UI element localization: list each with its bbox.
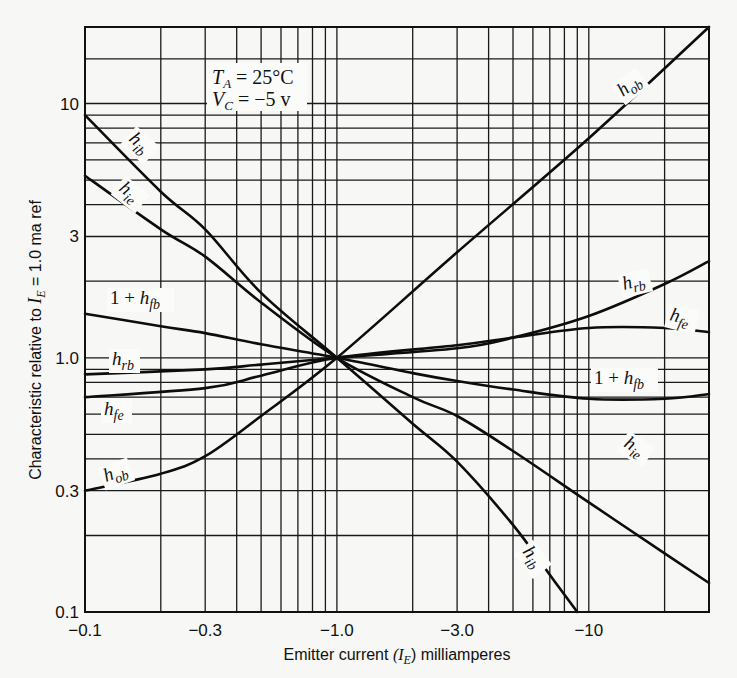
x-tick-label: −3.0 xyxy=(440,621,474,640)
curve-label: hob xyxy=(97,456,135,490)
y-axis-label: Characteristic relative to IE = 1.0 ma r… xyxy=(25,200,48,480)
curve-label: 1 + hfb xyxy=(107,287,174,312)
curve-label: hob xyxy=(610,66,650,105)
y-tick-label: 0.3 xyxy=(55,482,79,501)
y-tick-label: 3 xyxy=(70,227,79,246)
y-axis-ticks: 0.10.31.0310 xyxy=(55,95,79,622)
y-tick-label: 10 xyxy=(60,95,79,114)
y-tick-label: 0.1 xyxy=(55,603,79,622)
curve-label: hrb xyxy=(109,348,140,373)
y-tick-label: 1.0 xyxy=(55,349,79,368)
x-tick-label: −10 xyxy=(574,621,603,640)
x-axis-label: Emitter current (IE) milliamperes xyxy=(284,646,511,667)
x-tick-label: −1.0 xyxy=(320,621,354,640)
voltage-annotation: VC = −5 v xyxy=(212,88,290,113)
x-axis-ticks: −0.1−0.3−1.0−3.0−10 xyxy=(68,621,603,640)
x-tick-label: −0.1 xyxy=(68,621,102,640)
series-line-h-ob xyxy=(85,27,709,491)
curve-label: 1 + hfb xyxy=(591,367,658,392)
chart: TA = 25°C VC = −5 v −0.1−0.3−1.0−3.0−10 … xyxy=(0,0,737,678)
curve-label: hie xyxy=(616,430,656,468)
curve-label: hfe xyxy=(664,303,700,335)
curve-label: hrb xyxy=(617,267,653,299)
curve-label: hfe xyxy=(101,398,132,423)
curve-label: hib xyxy=(514,539,553,579)
conditions-annotation: TA = 25°C VC = −5 v xyxy=(207,63,307,113)
x-tick-label: −0.3 xyxy=(188,621,222,640)
